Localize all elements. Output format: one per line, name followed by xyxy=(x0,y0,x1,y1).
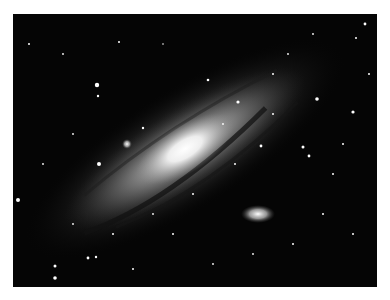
galaxy-photo xyxy=(13,14,377,287)
galaxy-illustration xyxy=(13,14,377,287)
satellite-galaxy xyxy=(241,205,275,223)
